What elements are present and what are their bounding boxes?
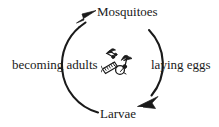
transition-label-laying-eggs: laying eggs [151, 57, 211, 72]
diagram-canvas: Mosquitoes laying eggs Larvae becoming a… [0, 0, 219, 127]
stage-label-larvae: Larvae [100, 106, 136, 121]
arc-segment-top-left-tail [80, 23, 86, 28]
stage-label-mosquitoes: Mosquitoes [97, 4, 158, 19]
arc-segment-bottom-left [62, 70, 98, 113]
mosquito-and-larvae-illustration [101, 47, 141, 82]
arrow-to-mosquitoes-head [77, 11, 97, 24]
transition-label-becoming-adults: becoming adults [12, 57, 98, 72]
